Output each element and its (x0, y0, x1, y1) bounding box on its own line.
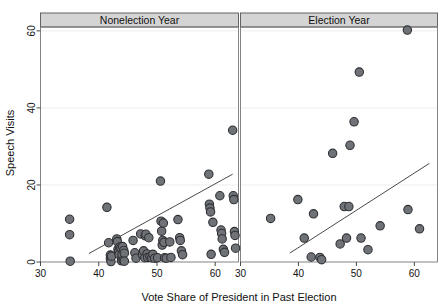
xtick-label-election-year-30: 30 (235, 268, 247, 279)
data-point (415, 225, 423, 233)
data-point (300, 234, 308, 242)
xtick-label-election-year-40: 40 (293, 268, 305, 279)
data-point (167, 253, 175, 261)
data-point (231, 244, 239, 252)
ytick-label-0: 0 (26, 259, 37, 265)
data-point (230, 195, 238, 203)
data-point (66, 257, 74, 265)
data-point (159, 219, 167, 227)
data-point (355, 68, 363, 76)
xtick-label-nonelection-year-60: 60 (210, 268, 222, 279)
data-point (176, 236, 184, 244)
ytick-label-40: 40 (26, 102, 37, 114)
data-point (309, 210, 317, 218)
data-point (129, 236, 137, 244)
data-point (404, 205, 412, 213)
data-point (342, 234, 350, 242)
data-point (209, 218, 217, 226)
data-point (317, 255, 325, 263)
data-point (231, 231, 239, 239)
data-point (65, 215, 73, 223)
xtick-label-election-year-50: 50 (351, 268, 363, 279)
xtick-label-election-year-60: 60 (409, 268, 421, 279)
data-point (145, 234, 153, 242)
data-point (103, 203, 111, 211)
panel-title-election-year: Election Year (308, 14, 370, 26)
data-point (120, 257, 128, 265)
data-point (328, 149, 336, 157)
data-point (65, 230, 73, 238)
panel-title-nonelection-year: Nonelection Year (100, 14, 180, 26)
data-point (294, 195, 302, 203)
data-point (307, 253, 315, 261)
data-point (228, 126, 236, 134)
data-point (346, 141, 354, 149)
ytick-label-60: 60 (26, 25, 37, 37)
x-axis-label: Vote Share of President in Past Election (141, 291, 336, 303)
data-point (206, 208, 214, 216)
data-point (104, 239, 112, 247)
data-point (266, 214, 274, 222)
data-point (120, 249, 128, 257)
y-axis-label: Speech Visits (4, 109, 16, 176)
scatter-plot-figure: Nonelection YearElection Year 3040506002… (0, 0, 448, 307)
data-point (376, 222, 384, 230)
data-point (350, 118, 358, 126)
data-point (345, 202, 353, 210)
data-point (364, 245, 372, 253)
ytick-label-20: 20 (26, 179, 37, 191)
data-point (205, 170, 213, 178)
data-point (403, 26, 411, 34)
xtick-label-nonelection-year-50: 50 (151, 268, 163, 279)
xtick-label-nonelection-year-40: 40 (93, 268, 105, 279)
xtick-label-nonelection-year-30: 30 (35, 268, 47, 279)
data-point (156, 177, 164, 185)
data-point (207, 250, 215, 258)
data-point (157, 227, 165, 235)
data-point (220, 248, 228, 256)
data-point (178, 250, 186, 258)
data-point (166, 238, 174, 246)
data-point (357, 234, 365, 242)
plot-canvas: Nonelection YearElection Year 3040506002… (0, 0, 448, 307)
data-point (174, 215, 182, 223)
data-point (216, 192, 224, 200)
data-point (218, 235, 226, 243)
